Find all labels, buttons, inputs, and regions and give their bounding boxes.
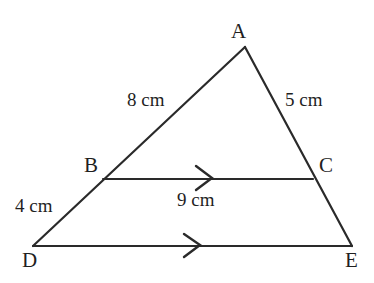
triangle-figure	[0, 0, 374, 283]
vertex-label-e: E	[345, 250, 358, 271]
measure-label-side-ae: 5 cm	[285, 90, 322, 109]
vertex-label-a: A	[231, 21, 246, 42]
measure-label-side-bd: 4 cm	[15, 196, 52, 215]
vertex-label-c: C	[319, 155, 333, 176]
vertex-label-d: D	[22, 250, 37, 271]
measure-label-side-bc: 9 cm	[177, 190, 214, 209]
segment-AE	[245, 47, 352, 246]
vertex-label-b: B	[84, 155, 98, 176]
geometry-diagram-canvas: A B C D E 8 cm 5 cm 4 cm 9 cm	[0, 0, 374, 283]
measure-label-side-ad: 8 cm	[127, 90, 164, 109]
segment-AD	[33, 47, 245, 246]
